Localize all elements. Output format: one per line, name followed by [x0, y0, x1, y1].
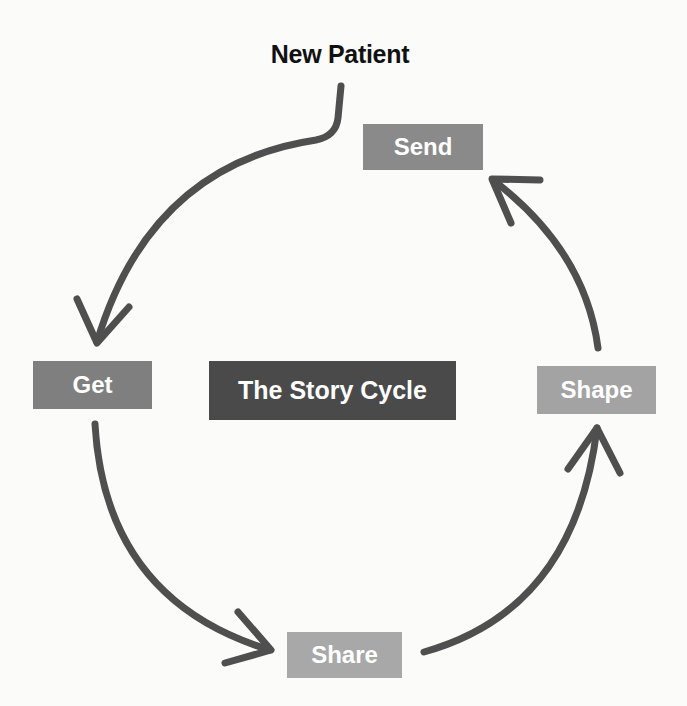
node-share: Share — [287, 632, 402, 678]
arrow-get-to-share — [95, 424, 271, 663]
node-center-title: The Story Cycle — [209, 361, 456, 420]
node-shape-label: Shape — [560, 376, 632, 404]
story-cycle-diagram: New Patient Send Get The Story Cycle Sha… — [0, 0, 687, 706]
node-share-label: Share — [311, 641, 378, 669]
node-send: Send — [363, 124, 483, 170]
cycle-arrows — [0, 0, 687, 706]
node-get: Get — [33, 361, 152, 409]
node-send-label: Send — [394, 133, 453, 161]
node-get-label: Get — [72, 371, 112, 399]
arrow-shape-to-send — [492, 179, 598, 348]
arrow-share-to-shape — [424, 428, 620, 652]
new-patient-label: New Patient — [240, 40, 440, 69]
center-title-label: The Story Cycle — [238, 376, 427, 405]
node-shape: Shape — [537, 366, 656, 414]
arrow-new-patient-to-get — [77, 86, 341, 343]
